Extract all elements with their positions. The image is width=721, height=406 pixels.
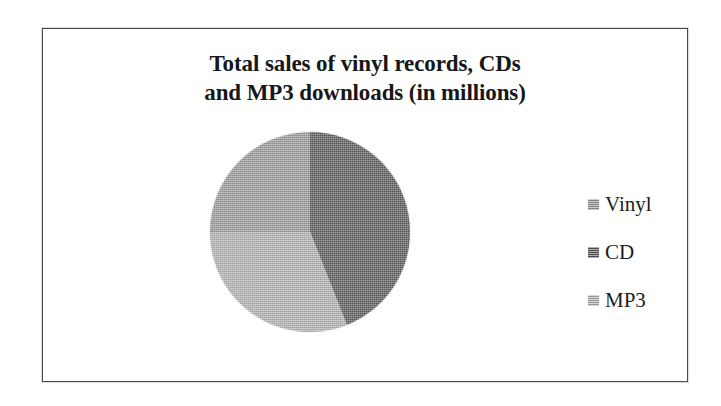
- chart-frame: Total sales of vinyl records, CDs and MP…: [42, 28, 688, 382]
- legend-item-mp3[interactable]: MP3: [588, 290, 683, 310]
- pie-slice-vinyl[interactable]: [210, 132, 310, 232]
- legend-label-mp3: MP3: [605, 290, 646, 311]
- legend-swatch-vinyl: [588, 199, 599, 210]
- legend-swatch-mp3: [588, 295, 599, 306]
- pie-svg: [209, 131, 411, 333]
- legend-label-cd: CD: [605, 242, 634, 263]
- pie-chart: [209, 131, 411, 333]
- plot-area: Vinyl CD MP3: [43, 29, 687, 381]
- legend-label-vinyl: Vinyl: [605, 194, 652, 215]
- chart-legend: Vinyl CD MP3: [588, 194, 683, 338]
- legend-item-vinyl[interactable]: Vinyl: [588, 194, 683, 214]
- legend-item-cd[interactable]: CD: [588, 242, 683, 262]
- legend-swatch-cd: [588, 247, 599, 258]
